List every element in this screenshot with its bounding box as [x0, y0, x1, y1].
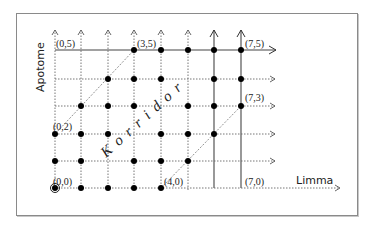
vertical-gridlines — [55, 30, 188, 190]
label-4-0: (4,0) — [164, 176, 183, 188]
label-0-0: (0,0) — [53, 176, 72, 188]
lattice-point — [211, 47, 217, 53]
lattice-point — [52, 158, 58, 164]
lattice-point — [158, 76, 164, 82]
lattice-point — [158, 158, 164, 164]
lattice-point — [185, 131, 191, 137]
label-7-0: (7,0) — [245, 176, 264, 188]
label-7-3: (7,3) — [245, 92, 264, 104]
label-3-5: (3,5) — [137, 38, 156, 50]
label-7-5: (7,5) — [245, 38, 264, 50]
lattice-point — [78, 103, 84, 109]
lattice-point — [158, 47, 164, 53]
lattice-point — [78, 158, 84, 164]
lattice-point — [238, 103, 244, 109]
corridor-label: Korridor — [97, 75, 190, 161]
vertical-boundary-lines — [214, 30, 241, 188]
lattice-point — [211, 131, 217, 137]
lattice-point — [185, 103, 191, 109]
lattice-point — [78, 185, 84, 191]
lattice-point — [238, 47, 244, 53]
x-axis-label: Limma — [296, 174, 333, 187]
lattice-point — [105, 103, 111, 109]
lattice-point — [238, 76, 244, 82]
lattice-point — [158, 131, 164, 137]
lattice-point — [211, 76, 217, 82]
label-0-2: (0,2) — [53, 121, 72, 133]
lattice-point — [185, 47, 191, 53]
lattice-point — [105, 76, 111, 82]
lattice-point — [131, 103, 137, 109]
lattice-point — [105, 185, 111, 191]
lattice-point — [211, 103, 217, 109]
y-axis-label: Apotome — [34, 42, 47, 92]
lattice-point — [131, 185, 137, 191]
lattice-point — [131, 158, 137, 164]
horizontal-gridlines — [55, 79, 340, 188]
lattice-point — [131, 76, 137, 82]
korridor-diagram: Limma Apotome (0,0) (0,2) (0,5) (3,5) (4… — [0, 0, 371, 227]
lattice-point — [78, 131, 84, 137]
label-0-5: (0,5) — [56, 38, 75, 50]
lattice-point — [185, 158, 191, 164]
